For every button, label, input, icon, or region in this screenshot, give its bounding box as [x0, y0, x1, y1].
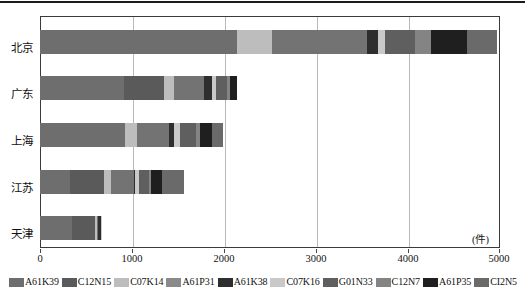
bar-segment [124, 76, 163, 100]
bar-segment [101, 216, 102, 240]
x-tick-label-4000: 4000 [398, 253, 419, 264]
bar-segment [40, 170, 70, 194]
legend-item[interactable]: A61P31 [166, 277, 214, 287]
legend-swatch-icon [376, 278, 391, 287]
x-tick-label-2000: 2000 [214, 253, 235, 264]
bar-segment [237, 30, 272, 54]
bar-segment [125, 123, 137, 147]
bar-segment [200, 123, 212, 147]
bar-segment [162, 170, 184, 194]
bar-segment [216, 76, 227, 100]
legend-swatch-icon [423, 278, 438, 287]
legend-swatch-icon [166, 278, 181, 287]
bar-segment [137, 123, 169, 147]
x-axis-ticks: 0 1000 2000 3000 4000 5000 [40, 249, 500, 265]
legend-label: A61P31 [182, 277, 214, 287]
legend-item[interactable]: C12N7 [376, 277, 420, 287]
legend-swatch-icon [218, 278, 233, 287]
chart-legend: A61K39C12N15C07K14A61P31A61K38C07K16G01N… [9, 275, 517, 289]
legend-label: G01N33 [339, 277, 373, 287]
bar-segment [40, 216, 72, 240]
legend-label: C07K16 [286, 277, 319, 287]
bar-segment [212, 123, 223, 147]
legend-item[interactable]: G01N33 [323, 277, 373, 287]
legend-swatch-icon [62, 278, 77, 287]
x-tick-label-5000: 5000 [489, 253, 510, 264]
bar-segment [230, 76, 237, 100]
table-row [40, 170, 184, 194]
legend-item[interactable]: A61K39 [9, 277, 59, 287]
bar-segment [378, 30, 385, 54]
bar-segment [415, 30, 431, 54]
table-row [40, 76, 237, 100]
bar-segment [204, 76, 212, 100]
legend-label: C07K14 [130, 277, 163, 287]
bar-segment [272, 30, 367, 54]
bar-segment [40, 76, 124, 100]
bar-segment [467, 30, 497, 54]
bar-segment [385, 30, 415, 54]
table-row [40, 123, 223, 147]
axis-unit-label: (件) [472, 234, 489, 245]
x-tick-label-1000: 1000 [122, 253, 143, 264]
x-tick-label-3000: 3000 [306, 253, 327, 264]
y-tick-label-1: 广东 [0, 88, 33, 100]
bar-segment [174, 76, 204, 100]
bar-segment [40, 30, 237, 54]
bar-segment [151, 170, 162, 194]
table-row [40, 216, 101, 240]
bar-segment [164, 76, 174, 100]
legend-label: C12N7 [392, 277, 420, 287]
legend-swatch-icon [270, 278, 285, 287]
legend-swatch-icon [323, 278, 338, 287]
legend-item[interactable]: C07K14 [114, 277, 163, 287]
legend-label: C12N15 [78, 277, 111, 287]
legend-swatch-icon [114, 278, 129, 287]
legend-item[interactable]: C12N15 [62, 277, 111, 287]
top-divider [0, 1, 525, 3]
y-tick-label-0: 北京 [0, 42, 33, 54]
x-tick-label-0: 0 [37, 253, 42, 264]
bar-segment [367, 30, 378, 54]
legend-label: A61P35 [439, 277, 471, 287]
legend-swatch-icon [9, 278, 24, 287]
table-row [40, 30, 497, 54]
legend-label: A61K39 [25, 277, 59, 287]
y-tick-label-2: 上海 [0, 135, 33, 147]
bar-segment [40, 123, 125, 147]
y-tick-label-4: 天津 [0, 228, 33, 240]
legend-item[interactable]: A61K38 [218, 277, 268, 287]
stacked-bar-chart: 北京 广东 上海 江苏 天津 0 1000 2000 3000 4000 500… [0, 0, 525, 297]
bar-segment [70, 170, 104, 194]
legend-item[interactable]: A61P35 [423, 277, 471, 287]
y-tick-label-3: 江苏 [0, 182, 33, 194]
bar-segment [139, 170, 149, 194]
y-axis-labels: 北京 广东 上海 江苏 天津 [0, 16, 36, 248]
bar-segment [431, 30, 467, 54]
legend-label: A61K38 [234, 277, 268, 287]
legend-item[interactable]: CI2N5 [474, 277, 517, 287]
legend-item[interactable]: C07K16 [270, 277, 319, 287]
bar-segment [180, 123, 196, 147]
legend-swatch-icon [474, 278, 489, 287]
bar-segment [72, 216, 95, 240]
bars-layer [40, 16, 500, 248]
bar-segment [111, 170, 134, 194]
legend-label: CI2N5 [490, 277, 517, 287]
